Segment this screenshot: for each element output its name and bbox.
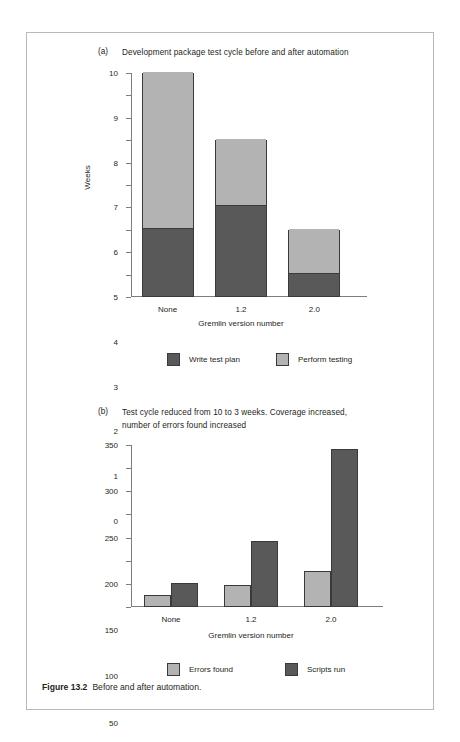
x-category-label: None	[158, 305, 177, 314]
y-tick-label: 50	[109, 718, 118, 727]
bar-segment	[143, 229, 193, 296]
y-tick: 2	[126, 252, 131, 253]
bar-None-errors	[144, 595, 171, 607]
x-category-label: 1.2	[245, 615, 256, 624]
x-category-label: 2.0	[325, 615, 336, 624]
y-tick: 6	[126, 163, 131, 164]
panel-a-label: (a)	[98, 47, 108, 56]
legend-label: Perform testing	[298, 355, 352, 364]
y-tick: 4	[126, 207, 131, 208]
x-category-label: 1.2	[235, 305, 246, 314]
bar-2-0	[288, 230, 340, 297]
bar-2-0-scripts	[331, 449, 358, 607]
y-tick-label: 9	[114, 113, 118, 122]
y-tick-label: 4	[114, 337, 118, 346]
y-tick: 1	[126, 275, 131, 276]
y-tick: 200	[126, 514, 131, 515]
bar-segment	[216, 206, 266, 296]
y-tick: 3	[126, 230, 131, 231]
chart-b-legend: Errors foundScripts run	[167, 663, 345, 676]
panel-b-caption: Test cycle reduced from 10 to 3 weeks. C…	[122, 407, 422, 432]
y-tick: 350	[126, 445, 131, 446]
x-category-label: None	[161, 615, 180, 624]
figure-caption-text: Before and after automation.	[92, 682, 201, 692]
y-tick: 9	[126, 95, 131, 96]
bar-1-2	[215, 140, 267, 297]
bar-2-0-errors	[304, 571, 331, 607]
y-tick: 0	[126, 607, 131, 608]
y-tick-label: 200	[105, 579, 118, 588]
bar-None	[142, 73, 194, 297]
bar-segment	[216, 139, 266, 206]
y-tick-label: 5	[114, 293, 118, 302]
panel-b: (b) Test cycle reduced from 10 to 3 week…	[27, 395, 435, 695]
legend-item: Scripts run	[285, 663, 345, 676]
x-category-label: 2.0	[309, 305, 320, 314]
chart-a-x-axis-title: Gremlin version number	[131, 319, 351, 328]
bar-segment	[289, 229, 339, 274]
chart-a-y-axis-title: Weeks	[83, 165, 92, 189]
bar-1-2-errors	[224, 585, 251, 607]
bar-segment	[289, 274, 339, 296]
y-tick-label: 7	[114, 203, 118, 212]
y-tick-label: 350	[105, 441, 118, 450]
y-tick-label: 6	[114, 248, 118, 257]
legend-swatch	[276, 353, 289, 366]
figure-caption: Figure 13.2Before and after automation.	[42, 682, 201, 692]
legend-label: Errors found	[189, 665, 233, 674]
chart-b-plot-area: 050100150200250300350	[131, 445, 371, 607]
y-tick-label: 3	[114, 382, 118, 391]
y-tick: 150	[126, 538, 131, 539]
legend-label: Scripts run	[307, 665, 345, 674]
y-tick: 50	[126, 584, 131, 585]
panel-b-label: (b)	[98, 407, 108, 416]
y-tick-label: 300	[105, 487, 118, 496]
legend-label: Write test plan	[189, 355, 240, 364]
y-tick: 0	[126, 297, 131, 298]
panel-a-caption: Development package test cycle before an…	[122, 47, 422, 60]
legend-swatch	[167, 353, 180, 366]
y-tick-label: 100	[105, 672, 118, 681]
chart-a-plot-area: 012345678910	[131, 73, 351, 297]
bar-segment	[143, 72, 193, 229]
y-tick-label: 250	[105, 533, 118, 542]
chart-a-y-axis	[131, 73, 132, 297]
bar-1-2-scripts	[251, 541, 278, 607]
y-tick: 10	[126, 73, 131, 74]
legend-swatch	[167, 663, 180, 676]
y-tick: 300	[126, 468, 131, 469]
y-tick-label: 8	[114, 158, 118, 167]
y-tick: 250	[126, 491, 131, 492]
legend-item: Perform testing	[276, 353, 352, 366]
chart-b-x-axis-title: Gremlin version number	[131, 631, 371, 640]
bar-None-scripts	[171, 583, 198, 607]
legend-swatch	[285, 663, 298, 676]
y-tick: 8	[126, 118, 131, 119]
figure-caption-number: Figure 13.2	[42, 682, 87, 692]
y-tick-label: 10	[109, 69, 118, 78]
y-tick: 7	[126, 140, 131, 141]
figure-page: (a) Development package test cycle befor…	[0, 0, 460, 742]
y-tick-label: 150	[105, 626, 118, 635]
panel-a: (a) Development package test cycle befor…	[27, 33, 435, 363]
y-tick: 5	[126, 185, 131, 186]
legend-item: Errors found	[167, 663, 233, 676]
figure-border-box: (a) Development package test cycle befor…	[26, 32, 434, 710]
legend-item: Write test plan	[167, 353, 240, 366]
chart-b-y-axis	[131, 445, 132, 607]
chart-a-legend: Write test planPerform testing	[167, 353, 352, 366]
y-tick: 100	[126, 561, 131, 562]
